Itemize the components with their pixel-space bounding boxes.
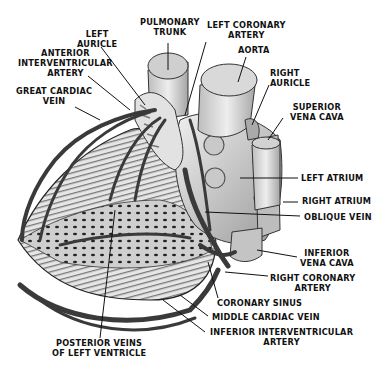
label-pulmonary-trunk: PULMONARY TRUNK — [140, 17, 200, 37]
label-aorta: AORTA — [238, 45, 270, 55]
heart-diagram: PULMONARY TRUNK LEFT CORONARY ARTERY LEF… — [0, 0, 388, 366]
label-right-coronary-artery: RIGHT CORONARY ARTERY — [270, 273, 355, 293]
label-middle-cardiac-vein: MIDDLE CARDIAC VEIN — [212, 312, 320, 322]
label-right-atrium: RIGHT ATRIUM — [302, 196, 371, 206]
label-posterior-veins-of-left-ventricle: POSTERIOR VEINS OF LEFT VENTRICLE — [52, 338, 146, 358]
label-coronary-sinus: CORONARY SINUS — [217, 298, 302, 308]
label-left-coronary-artery: LEFT CORONARY ARTERY — [207, 20, 286, 40]
label-inferior-vena-cava: INFERIOR VENA CAVA — [300, 248, 354, 268]
label-inferior-interventricular-artery: INFERIOR INTERVENTRICULAR ARTERY — [210, 327, 353, 347]
label-anterior-interventricular-artery: ANTERIOR INTERVENTRICULAR ARTERY — [18, 48, 113, 78]
label-great-cardiac-vein: GREAT CARDIAC VEIN — [16, 86, 92, 106]
label-superior-vena-cava: SUPERIOR VENA CAVA — [290, 102, 344, 122]
inferior-vena-cava-shape — [230, 228, 262, 262]
label-left-auricle: LEFT AURICLE — [77, 29, 117, 49]
label-right-auricle: RIGHT AURICLE — [270, 68, 310, 88]
label-oblique-vein: OBLIQUE VEIN — [304, 212, 372, 222]
superior-vena-cava-shape — [252, 140, 280, 210]
label-left-atrium: LEFT ATRIUM — [301, 173, 363, 183]
right-auricle-shape — [245, 119, 259, 140]
